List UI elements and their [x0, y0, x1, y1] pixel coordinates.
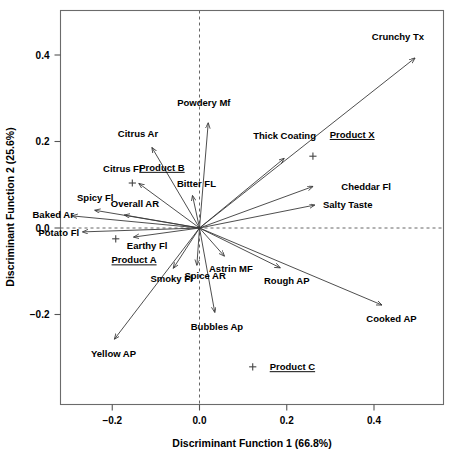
- y-tick-label: −0.2: [30, 309, 50, 320]
- x-tick-label: −0.2: [102, 415, 122, 426]
- vector-label: Overall AR: [111, 198, 159, 209]
- vector-label: Bubbles Ap: [191, 321, 244, 332]
- vector-label: Yellow AP: [91, 348, 137, 359]
- product-label: Product C: [270, 361, 316, 372]
- vector-label: Potato Fl: [38, 227, 79, 238]
- y-axis-title: Discriminant Function 2 (25.6%): [4, 127, 16, 286]
- x-tick-label: 0.2: [280, 415, 294, 426]
- discriminant-function-biplot: −0.20.00.20.4 −0.20.00.20.4 Crunchy TxPo…: [0, 0, 451, 456]
- x-tick-label: 0.4: [367, 415, 381, 426]
- vector-label: Rough AP: [264, 275, 310, 286]
- product-label: Product A: [112, 254, 157, 265]
- biplot-chart: −0.20.00.20.4 −0.20.00.20.4 Crunchy TxPo…: [0, 0, 451, 456]
- vector-label: Cooked AP: [366, 313, 417, 324]
- vector-label: Citrus Ar: [118, 128, 159, 139]
- y-tick-label: 0.2: [36, 136, 50, 147]
- vector-label: Baked Ar: [33, 209, 75, 220]
- vector-label: Bitter FL: [177, 178, 216, 189]
- vector-label: Crunchy Tx: [372, 31, 425, 42]
- product-label: Product X: [330, 129, 376, 140]
- vector-label: Earthy Fl: [127, 240, 168, 251]
- vector-label: Powdery Mf: [177, 97, 231, 108]
- vector-label: Citrus Fl: [103, 163, 142, 174]
- x-tick-label: 0.0: [193, 415, 207, 426]
- vector-label: Thick Coating: [253, 130, 316, 141]
- x-axis-title: Discriminant Function 1 (66.8%): [172, 437, 331, 449]
- vector-label: Salty Taste: [323, 199, 372, 210]
- vector-label: Spicy Fl: [77, 192, 113, 203]
- vector-label: Smoky Fl: [150, 273, 192, 284]
- vector-label: Cheddar Fl: [341, 181, 391, 192]
- y-tick-label: 0.4: [36, 50, 50, 61]
- product-label: Product B: [139, 162, 185, 173]
